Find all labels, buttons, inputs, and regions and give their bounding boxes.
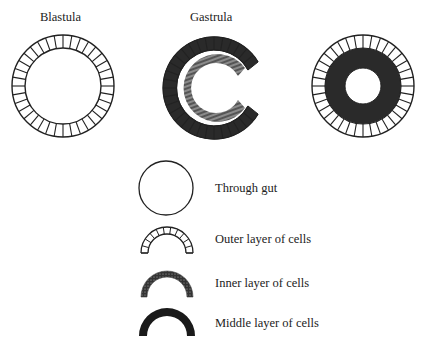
- legend-label-outer-layer: Outer layer of cells: [215, 232, 311, 247]
- middle-layer-icon: [139, 308, 195, 336]
- three-layer-figure: [312, 35, 414, 137]
- legend-label-inner-layer: Inner layer of cells: [215, 276, 309, 291]
- blastula-figure: [12, 35, 114, 137]
- legend-label-through-gut: Through gut: [215, 181, 277, 196]
- gastrula-figure: [163, 37, 258, 139]
- diagram-canvas: [0, 0, 422, 347]
- legend-label-middle-layer: Middle layer of cells: [215, 316, 319, 331]
- inner-layer-icon: [141, 271, 193, 297]
- outer-layer-icon: [141, 227, 193, 253]
- through-gut-icon: [139, 161, 193, 215]
